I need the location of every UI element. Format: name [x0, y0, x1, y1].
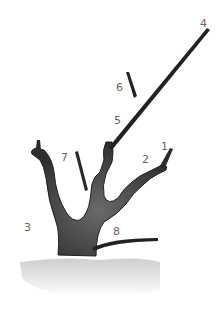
- label-4: 4: [200, 18, 207, 29]
- label-7: 7: [61, 152, 68, 163]
- label-6: 6: [116, 82, 123, 93]
- label-2: 2: [142, 154, 149, 165]
- label-5: 5: [114, 115, 121, 126]
- cane-4: [108, 28, 210, 150]
- sucker-8: [92, 238, 158, 251]
- vine-diagram: 1 2 3 4 5 6 7 8: [0, 0, 224, 310]
- shoot-7: [75, 151, 88, 191]
- ground: [20, 258, 160, 296]
- label-1: 1: [161, 141, 168, 152]
- shoot-6: [126, 72, 137, 98]
- label-3: 3: [24, 222, 31, 233]
- vine-illustration: [0, 0, 224, 310]
- label-8: 8: [113, 226, 120, 237]
